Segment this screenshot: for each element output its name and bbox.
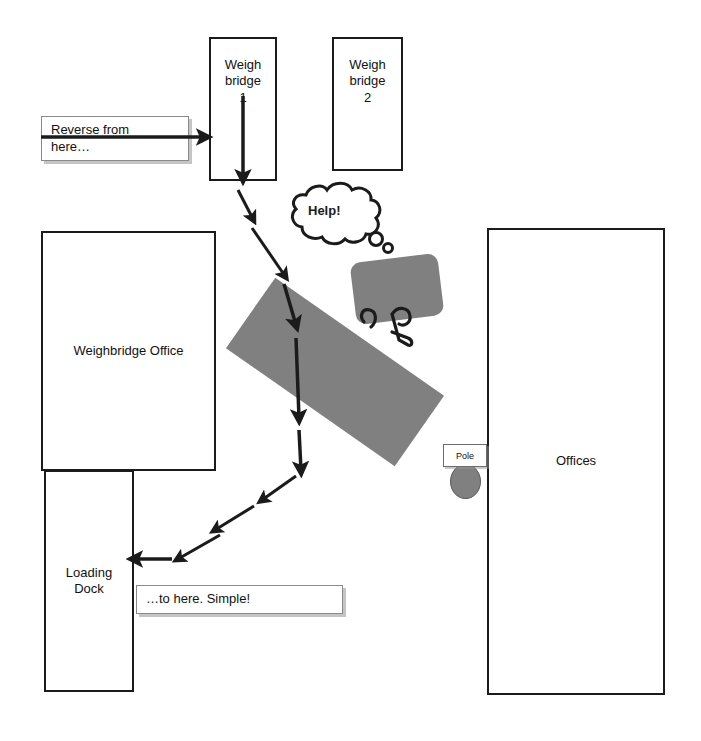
callout-reverse-from-here[interactable]: Reverse from here… <box>41 116 189 161</box>
callout-text: …to here. Simple! <box>146 591 250 608</box>
zone-weighbridge-office[interactable]: Weighbridge Office <box>41 231 216 471</box>
zone-label: Offices <box>556 453 596 469</box>
zone-offices[interactable]: Offices <box>487 228 665 695</box>
callout-to-here-simple[interactable]: …to here. Simple! <box>136 585 343 614</box>
zone-label: Weighbridge Office <box>73 343 183 359</box>
zone-weigh-bridge-1[interactable]: Weigh bridge 1 <box>209 37 277 181</box>
pole-label: Pole <box>456 451 474 461</box>
diagram-canvas: Weigh bridge 1 Weigh bridge 2 Weighbridg… <box>0 0 701 741</box>
reverse-arrow-5 <box>299 430 301 470</box>
pole-label-box[interactable]: Pole <box>443 444 487 467</box>
reverse-arrow-7 <box>215 506 254 530</box>
thought-bubble-text: Help! <box>308 203 341 218</box>
truck-cab <box>350 253 445 325</box>
reverse-arrow-6 <box>262 476 296 500</box>
zone-label: Weigh bridge 1 <box>225 57 262 106</box>
zone-label: Loading Dock <box>66 565 112 598</box>
reverse-arrow-1 <box>238 190 253 219</box>
zone-label: Weigh bridge 2 <box>349 57 386 106</box>
reverse-arrow-2 <box>252 228 285 276</box>
callout-text: Reverse from here… <box>51 122 129 156</box>
pole-marker <box>450 464 481 499</box>
zone-loading-dock[interactable]: Loading Dock <box>44 470 134 692</box>
reverse-arrow-8 <box>178 535 220 559</box>
zone-weigh-bridge-2[interactable]: Weigh bridge 2 <box>332 37 403 171</box>
